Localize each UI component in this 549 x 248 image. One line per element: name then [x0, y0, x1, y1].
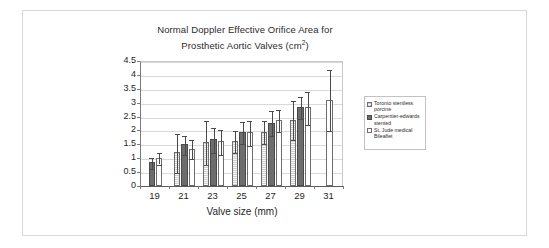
y-axis-tick-label: 0 [102, 180, 136, 190]
gridline [141, 118, 342, 119]
y-axis-tick-label: 1.5 [102, 138, 136, 148]
error-bar-series-2-category-27 [279, 110, 280, 132]
y-axis-tick-mark [137, 61, 140, 62]
plot-area [140, 61, 343, 186]
y-axis-tick-mark [137, 103, 140, 104]
y-axis-tick-label: 4 [102, 69, 136, 79]
gridline [141, 104, 342, 105]
error-bar-series-2-category-19 [159, 153, 160, 164]
gridline [141, 76, 342, 77]
x-axis-tick-mark [285, 186, 286, 189]
x-axis-tick-label: 19 [140, 190, 169, 201]
legend-label-series-1-line-2: stented [374, 120, 391, 126]
chart-title-line-2: Prosthetic Aortic Valves (cm2) [95, 37, 395, 53]
legend-label-series-0: Toronto stentless porcine [374, 100, 413, 112]
x-axis-tick-label: 25 [227, 190, 256, 201]
chart-title-line-2-post: ) [305, 40, 308, 51]
error-bar-series-1-category-23 [214, 128, 215, 153]
error-bar-cap-upper [305, 92, 310, 93]
y-axis-tick-label: 3 [102, 97, 136, 107]
error-bar-cap-upper [298, 97, 303, 98]
legend-label-series-2-line-2: Bileaflet [374, 133, 392, 139]
error-bar-cap-upper [327, 70, 332, 71]
x-axis-tick-mark [343, 186, 344, 189]
chart-legend: Toronto stentless porcine Carpentier-edw… [364, 96, 426, 150]
x-axis-tick-mark [314, 186, 315, 189]
error-bar-cap-upper [182, 136, 187, 137]
error-bar-cap-upper [240, 122, 245, 123]
legend-label-series-0-line-1: Toronto stentless [374, 100, 413, 106]
y-axis-tick-mark [137, 89, 140, 90]
y-axis-tick-label: 1 [102, 152, 136, 162]
x-axis-tick-mark [227, 186, 228, 189]
x-axis-tick-label: 21 [169, 190, 198, 201]
error-bar-series-0-category-25 [235, 131, 236, 153]
error-bar-series-2-category-23 [221, 130, 222, 155]
y-axis-tick-mark [137, 117, 140, 118]
chart-title-line-2-pre: Prosthetic Aortic Valves (cm [181, 40, 301, 51]
y-axis-tick-mark [137, 172, 140, 173]
legend-swatch-icon-series-2 [367, 128, 372, 133]
error-bar-cap-lower [157, 165, 162, 166]
error-bar-cap-lower [247, 146, 252, 147]
error-bar-cap-upper [269, 111, 274, 112]
x-axis-tick-label: 31 [314, 190, 343, 201]
error-bar-cap-lower [298, 119, 303, 120]
error-bar-cap-lower [204, 165, 209, 166]
error-bar-cap-lower [269, 136, 274, 137]
legend-item-toronto-stentless-porcine: Toronto stentless porcine [367, 100, 423, 112]
y-axis-tick-label: 4.5 [102, 55, 136, 65]
chart-title: Normal Doppler Effective Orifice Area fo… [95, 24, 395, 52]
error-bar-cap-lower [182, 155, 187, 156]
screenshot-root: Normal Doppler Effective Orifice Area fo… [0, 0, 549, 248]
x-axis-tick-label: 23 [198, 190, 227, 201]
legend-label-series-2-line-1: St. Jude medical [374, 127, 412, 133]
error-bar-series-0-category-23 [206, 121, 207, 165]
error-bar-series-0-category-29 [293, 101, 294, 140]
legend-label-series-0-line-2: porcine [374, 106, 391, 112]
chart-title-line-1: Normal Doppler Effective Orifice Area fo… [157, 24, 333, 35]
error-bar-series-2-category-31 [330, 70, 331, 131]
error-bar-cap-lower [189, 159, 194, 160]
error-bar-cap-upper [291, 101, 296, 102]
legend-item-st-jude-medical-bileaflet: St. Jude medical Bileaflet [367, 127, 423, 139]
error-bar-cap-lower [149, 169, 154, 170]
y-axis-tick-mark [137, 158, 140, 159]
legend-label-series-1: Carpentier-edwards stented [374, 113, 420, 125]
error-bar-cap-lower [262, 144, 267, 145]
error-bar-cap-lower [276, 132, 281, 133]
y-axis-tick-mark [137, 144, 140, 145]
error-bar-cap-upper [276, 110, 281, 111]
error-bar-cap-upper [204, 121, 209, 122]
error-bar-series-2-category-25 [250, 121, 251, 146]
x-axis-title: Valve size (mm) [140, 206, 344, 217]
error-bar-cap-lower [240, 144, 245, 145]
error-bar-series-0-category-27 [264, 121, 265, 143]
error-bar-cap-upper [233, 131, 238, 132]
error-bar-cap-upper [157, 153, 162, 154]
error-bar-cap-upper [175, 134, 180, 135]
y-axis-tick-label: 0.5 [102, 166, 136, 176]
error-bar-cap-lower [233, 153, 238, 154]
x-axis-tick-label: 27 [256, 190, 285, 201]
x-axis-tick-label: 29 [285, 190, 314, 201]
x-axis-tick-mark [198, 186, 199, 189]
error-bar-cap-upper [211, 128, 216, 129]
y-axis-tick-label: 3.5 [102, 83, 136, 93]
error-bar-series-0-category-21 [177, 134, 178, 173]
x-axis-tick-mark [169, 186, 170, 189]
error-bar-cap-upper [262, 121, 267, 122]
error-bar-cap-lower [305, 125, 310, 126]
legend-label-series-1-line-1: Carpentier-edwards [374, 113, 420, 119]
error-bar-cap-lower [218, 155, 223, 156]
error-bar-series-1-category-21 [185, 136, 186, 155]
y-axis-tick-mark [137, 75, 140, 76]
error-bar-series-1-category-27 [272, 111, 273, 136]
error-bar-cap-upper [247, 121, 252, 122]
y-axis-tick-label: 2 [102, 124, 136, 134]
gridline [141, 90, 342, 91]
error-bar-series-1-category-19 [152, 158, 153, 169]
error-bar-cap-lower [327, 131, 332, 132]
x-axis-tick-mark [256, 186, 257, 189]
legend-label-series-2: St. Jude medical Bileaflet [374, 127, 412, 139]
